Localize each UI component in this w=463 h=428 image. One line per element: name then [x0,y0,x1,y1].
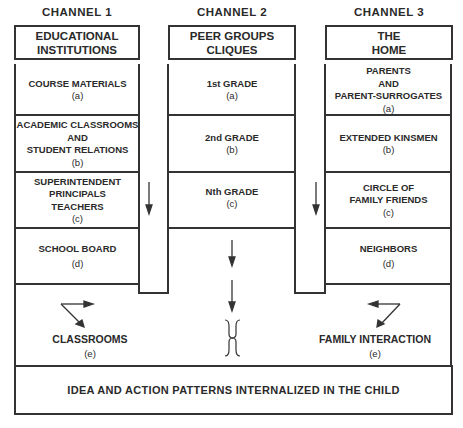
cell-letter: (c) [72,213,83,226]
channel-3-cell-a: PARENTS AND PARENT-SURROGATES (a) [326,65,451,115]
cell-text: AND [67,132,88,145]
cell-text: 2nd GRADE [205,132,259,145]
channel-1-cell-a: COURSE MATERIALS (a) [16,65,139,115]
cell-letter: (a) [72,90,84,103]
cell-text: STUDENT RELATIONS [27,144,129,157]
cell-letter: (d) [72,258,84,271]
cell-text: AND [378,78,399,91]
channel-3-cell-d: NEIGHBORS (d) [326,229,451,284]
cell-text: PRINCIPALS [49,188,106,201]
cell-text: SUPERINTENDENT [34,176,121,189]
cell-text: FAMILY FRIENDS [349,194,427,207]
cell-letter: (a) [383,103,395,116]
cell-text: SCHOOL BOARD [39,243,117,256]
channel-2-cell-c: Nth GRADE (c) [169,173,295,223]
channel-1-cell-d: SCHOOL BOARD (d) [16,229,139,284]
cell-text: CIRCLE OF [363,182,414,195]
cell-text: 1st GRADE [207,78,258,91]
cell-text: PARENT-SURROGATES [335,90,442,103]
cell-letter: (b) [72,157,84,170]
cell-text: PARENTS [366,65,411,78]
outcome-text: CLASSROOMS [52,333,127,345]
outcome-letter: (e) [84,348,96,359]
final-outcome-box: IDEA AND ACTION PATTERNS INTERNALIZED IN… [14,365,453,415]
cell-text: NEIGHBORS [360,243,418,256]
brace-icon [225,320,240,356]
cell-text: COURSE MATERIALS [29,78,127,91]
channel-3-cell-b: EXTENDED KINSMEN (b) [326,116,451,172]
cell-text: EXTENDED KINSMEN [339,132,437,145]
channel-2-cell-a: 1st GRADE (a) [169,65,295,115]
cell-letter: (b) [226,144,238,157]
cell-letter: (c) [226,198,237,211]
cell-text: Nth GRADE [206,186,259,199]
channel-1-cell-c: SUPERINTENDENT PRINCIPALS TEACHERS (c) [16,173,139,228]
cell-text: TEACHERS [51,201,103,214]
channel-3-cell-c: CIRCLE OF FAMILY FRIENDS (c) [326,173,451,228]
outcome-text: FAMILY INTERACTION [319,333,431,345]
outcome-letter: (e) [369,348,381,359]
cell-letter: (c) [383,207,394,220]
channel-1-cell-b: ACADEMIC CLASSROOMS AND STUDENT RELATION… [16,116,139,172]
cell-letter: (d) [383,258,395,271]
channel-2-cell-b: 2nd GRADE (b) [169,116,295,172]
cell-letter: (b) [383,144,395,157]
cell-text: ACADEMIC CLASSROOMS [17,119,139,132]
cell-letter: (a) [226,90,238,103]
classrooms-label: CLASSROOMS (e) [40,332,140,361]
family-interaction-label: FAMILY INTERACTION (e) [300,332,450,361]
